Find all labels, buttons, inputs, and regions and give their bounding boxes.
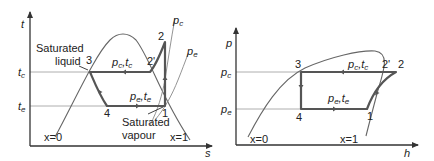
x1-label: x=1 — [340, 133, 358, 145]
point-2prime-label: 2' — [147, 55, 155, 67]
evaporation-label: pe,te — [327, 92, 350, 106]
pe-curve-label: pe — [186, 45, 198, 59]
point-4-label: 4 — [296, 111, 302, 123]
sat-liquid-label-line2: liquid — [55, 55, 81, 67]
sat-vapour-label-line2: vapour — [122, 129, 156, 141]
pc-curve-label: pc — [172, 14, 183, 28]
x1-label: x=1 — [170, 131, 188, 143]
arrow-right-icon — [333, 107, 337, 112]
ph-diagram: p h pc pe 3 4 1 2' 2 pc,tc pe,te x=0 x=1 — [220, 28, 418, 159]
arrow-left-icon — [340, 70, 344, 75]
point-2prime-label: 2' — [382, 58, 390, 70]
point-1-label: 1 — [162, 107, 168, 119]
arrow-down-icon — [299, 85, 304, 89]
evaporation-label: pe,te — [129, 90, 152, 104]
point-2-label: 2 — [398, 58, 404, 70]
condensation-label: pc,tc — [111, 56, 132, 70]
p-axis-label: p — [225, 37, 232, 49]
x0-label: x=0 — [250, 133, 268, 145]
arrow-left-icon — [122, 70, 126, 75]
h-axis-label: h — [404, 147, 410, 159]
x0-label: x=0 — [44, 131, 62, 143]
point-2-label: 2 — [158, 30, 164, 42]
point-4-label: 4 — [104, 107, 110, 119]
arrow-up-icon — [163, 76, 168, 80]
arrow-right-icon — [136, 104, 140, 109]
condensation-label: pc,tc — [347, 58, 368, 72]
pe-tick-label: pe — [220, 103, 232, 117]
point-3-label: 3 — [86, 54, 92, 66]
point-1-label: 1 — [367, 110, 373, 122]
te-tick-label: te — [18, 100, 26, 114]
s-axis-label: s — [205, 147, 211, 159]
sat-liquid-label-line1: Saturated — [36, 42, 84, 54]
t-axis-label: t — [21, 18, 25, 30]
pc-tick-label: pc — [220, 66, 231, 80]
diagram-canvas: t s tc te pc pe Saturated liquid Saturat… — [0, 0, 434, 161]
ts-diagram: t s tc te pc pe Saturated liquid Saturat… — [18, 12, 212, 159]
tc-tick-label: tc — [18, 66, 25, 80]
point-3-label: 3 — [295, 58, 301, 70]
